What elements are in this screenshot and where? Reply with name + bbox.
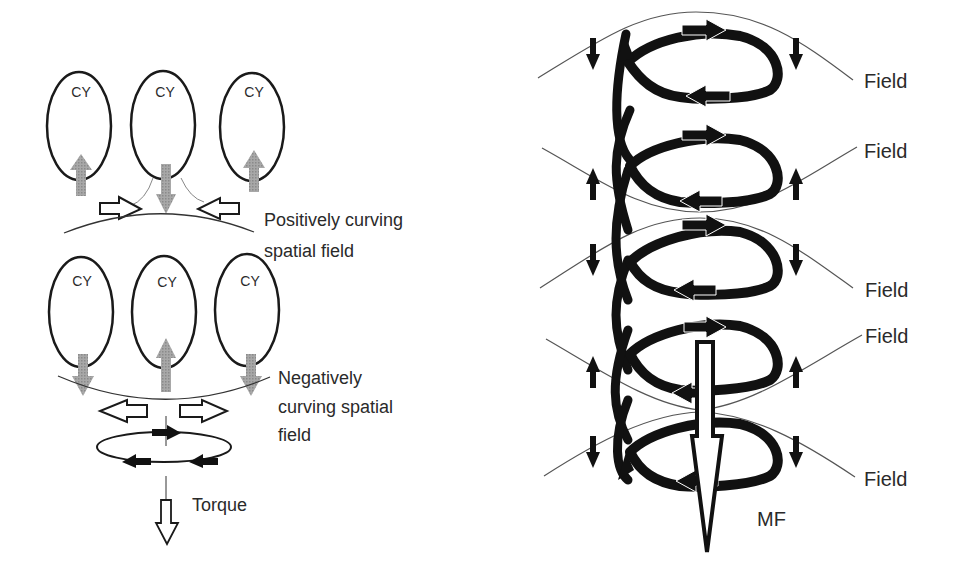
cy-label: CY [244, 84, 264, 100]
black-up-arrow-icon [789, 356, 803, 388]
hollow-right-arrow-icon [180, 400, 227, 422]
mf-label: MF [757, 508, 786, 530]
cy-label: CY [72, 273, 92, 289]
diagram-canvas: CY CY CY Positively curving spatial fiel… [0, 0, 960, 578]
gray-down-arrow-icon [156, 164, 176, 214]
negative-caption-line3: field [278, 425, 311, 445]
field-label: Field [864, 468, 907, 490]
negative-caption-line1: Negatively [278, 368, 362, 388]
black-up-arrow-icon [789, 168, 803, 200]
gray-up-arrow-icon [243, 150, 265, 192]
black-right-arrow-icon [684, 316, 726, 338]
negative-caption-line2: curving spatial [278, 397, 393, 417]
gray-up-arrow-icon [70, 154, 92, 196]
positive-caption-line1: Positively curving [264, 210, 403, 230]
black-up-arrow-icon [586, 356, 600, 388]
torque-group: Torque [97, 416, 247, 544]
black-down-arrow-icon [586, 38, 600, 70]
black-down-arrow-icon [789, 244, 803, 276]
positive-curvature-group: CY CY CY Positively curving spatial fiel… [47, 71, 403, 261]
black-left-arrow-icon [122, 454, 151, 468]
positive-caption-line2: spatial field [264, 241, 354, 261]
cy-label: CY [157, 274, 177, 290]
black-down-arrow-icon [586, 436, 600, 468]
field-label: Field [864, 140, 907, 162]
cy-label: CY [240, 273, 260, 289]
black-down-arrow-icon [586, 244, 600, 276]
rotation-ellipse [97, 432, 231, 462]
torque-label: Torque [192, 495, 247, 515]
mf-down-arrow-icon [692, 342, 722, 552]
black-down-arrow-icon [789, 436, 803, 468]
hollow-left-arrow-icon [198, 198, 239, 219]
gray-down-arrow-icon [72, 354, 94, 396]
field-label: Field [865, 279, 908, 301]
gray-down-arrow-icon [240, 354, 262, 396]
negative-curvature-group: CY CY CY Negatively curving spatial fiel… [49, 254, 393, 445]
torque-down-arrow-icon [156, 500, 178, 544]
cy-label: CY [155, 84, 175, 100]
field-label: Field [865, 325, 908, 347]
field-label: Field [864, 70, 907, 92]
black-up-arrow-icon [586, 168, 600, 200]
cy-label: CY [71, 84, 91, 100]
hollow-left-arrow-icon [100, 400, 147, 422]
cy-ellipse [215, 254, 279, 366]
black-left-arrow-icon [680, 190, 722, 212]
positive-field-curve [64, 214, 254, 233]
